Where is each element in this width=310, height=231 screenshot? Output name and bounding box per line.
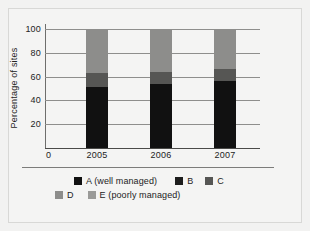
bar-2006-segment-d bbox=[150, 29, 172, 72]
legend-label-e: E (poorly managed) bbox=[100, 190, 181, 200]
legend-label-c: C bbox=[217, 176, 224, 186]
legend-label-b: B bbox=[187, 176, 193, 186]
legend-swatch-e-icon bbox=[88, 191, 96, 199]
legend-label-a: A (well managed) bbox=[86, 176, 157, 186]
y-tick-label-40: 40 bbox=[31, 95, 41, 105]
bar-2007 bbox=[214, 29, 236, 148]
legend-swatch-c-icon bbox=[205, 177, 213, 185]
x-tick-label-2005: 2005 bbox=[87, 150, 108, 160]
chart-legend: A (well managed) B C D E (poorly managed… bbox=[45, 174, 275, 202]
axis-underline bbox=[22, 167, 274, 168]
y-axis-title: Percentage of sites bbox=[9, 48, 19, 129]
bar-2005-segment-d bbox=[86, 29, 108, 73]
legend-label-d: D bbox=[67, 190, 74, 200]
bar-2007-segment-d bbox=[214, 29, 236, 69]
plot-area: 100 80 60 40 20 bbox=[45, 29, 260, 148]
bar-2005-segment-c bbox=[86, 73, 108, 87]
legend-row-2: D E (poorly managed) bbox=[45, 188, 275, 202]
y-tick-label-60: 60 bbox=[31, 72, 41, 82]
legend-item-b: B bbox=[175, 176, 193, 186]
x-tick-label-2007: 2007 bbox=[215, 150, 236, 160]
legend-item-d: D bbox=[55, 190, 74, 200]
x-axis-line bbox=[45, 148, 260, 149]
legend-swatch-b-icon bbox=[175, 177, 183, 185]
y-tick-label-80: 80 bbox=[31, 48, 41, 58]
bar-2007-segment-c bbox=[214, 69, 236, 81]
legend-item-a: A (well managed) bbox=[74, 176, 157, 186]
legend-swatch-a-icon bbox=[74, 177, 82, 185]
bar-2005-segment-a bbox=[86, 87, 108, 148]
bar-2006-segment-c bbox=[150, 72, 172, 84]
legend-item-e: E (poorly managed) bbox=[88, 190, 181, 200]
x-tick-label-2006: 2006 bbox=[151, 150, 172, 160]
chart-figure: 100 80 60 40 20 bbox=[0, 0, 310, 231]
bar-2006-segment-a bbox=[150, 84, 172, 148]
x-origin-label: 0 bbox=[46, 150, 51, 160]
legend-row-1: A (well managed) B C bbox=[45, 174, 275, 188]
legend-item-c: C bbox=[205, 176, 224, 186]
y-tick-label-100: 100 bbox=[25, 24, 41, 34]
y-tick-label-20: 20 bbox=[31, 119, 41, 129]
bar-2007-segment-a bbox=[214, 81, 236, 148]
legend-swatch-d-icon bbox=[55, 191, 63, 199]
bar-2006 bbox=[150, 29, 172, 148]
bar-2005 bbox=[86, 29, 108, 148]
